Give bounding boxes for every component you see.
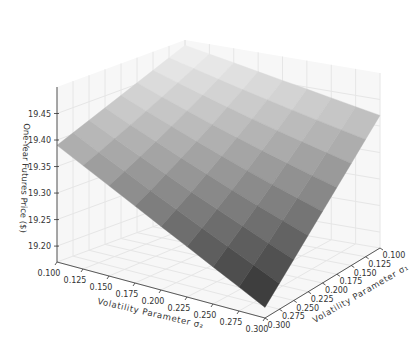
y-tick-label: 0.250 — [296, 304, 319, 313]
z-tick-label: 19.25 — [28, 216, 51, 225]
y-tick-label: 0.300 — [268, 321, 291, 330]
x-tick-label: 0.175 — [116, 290, 139, 299]
y-tick-label: 0.150 — [354, 269, 377, 278]
y-tick-label: 0.275 — [282, 312, 305, 321]
y-tick-label: 0.225 — [311, 295, 334, 304]
x-tick-label: 0.300 — [246, 325, 269, 334]
x-tick-label: 0.275 — [220, 318, 243, 327]
x-tick-label: 0.100 — [38, 269, 61, 278]
x-tick-label: 0.125 — [64, 276, 87, 285]
z-tick-label: 19.35 — [28, 163, 51, 172]
surface-plot: 19.2019.2519.3019.3519.4019.450.1000.125… — [0, 0, 419, 348]
x-tick-label: 0.150 — [90, 283, 113, 292]
x-tick-label: 0.200 — [142, 297, 165, 306]
y-tick-label: 0.200 — [325, 286, 348, 295]
z-tick-label: 19.30 — [28, 189, 51, 198]
y-tick-label: 0.125 — [368, 260, 391, 269]
y-tick-label: 0.175 — [339, 277, 362, 286]
z-tick-label: 19.45 — [28, 110, 51, 119]
plot-canvas: 19.2019.2519.3019.3519.4019.450.1000.125… — [0, 0, 419, 348]
z-tick-label: 19.20 — [28, 242, 51, 251]
y-tick-label: 0.100 — [383, 251, 406, 260]
